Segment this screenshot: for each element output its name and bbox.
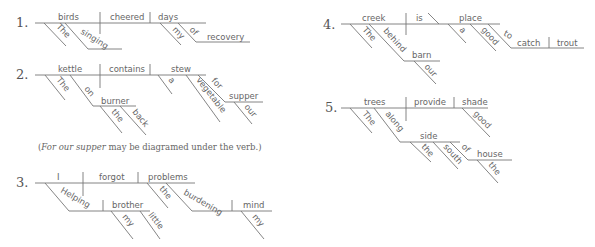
prep-object-word: recovery [207, 32, 244, 42]
participle-object-word: mind [243, 200, 264, 210]
verb-word: is [416, 13, 423, 23]
verb-word: forgot [99, 172, 125, 182]
verb-word: cheered [110, 12, 144, 22]
modifier-word: good [472, 108, 494, 130]
object-word: stew [171, 64, 191, 74]
subject-word: I [57, 172, 60, 182]
preposition-word: along [383, 109, 406, 133]
object-word: problems [148, 172, 188, 182]
diagram-1: 1. birds cheered days The singing my of … [16, 12, 250, 51]
modifier-word: singing [79, 26, 110, 51]
complement-divider [428, 13, 439, 24]
object-word: days [158, 12, 179, 22]
diagram-5: 5. trees provide shade The along side th… [325, 97, 512, 183]
modifier-word: good [480, 25, 502, 47]
participle-word: Helping [59, 185, 92, 210]
prep-object-word: supper [229, 91, 259, 101]
modifier-word: my [171, 24, 187, 41]
modifier-word: our [423, 62, 440, 80]
preposition-word: behind [382, 26, 409, 54]
diagram-3: 3. I forgot problems Helping brother my … [16, 172, 272, 239]
complement-word: place [459, 13, 482, 23]
preposition-word: of [188, 24, 202, 38]
diagram-number: 1. [16, 15, 28, 30]
prep-object-word: side [420, 131, 437, 141]
object-word: shade [462, 97, 488, 107]
subject-word: kettle [58, 64, 82, 74]
verb-word: contains [109, 64, 146, 74]
modifier-word: a [166, 75, 177, 85]
diagram-number: 5. [325, 100, 337, 115]
subject-word: creek [362, 13, 385, 23]
infinitive-marker-word: to [502, 28, 514, 41]
modifier-word: The [54, 74, 72, 93]
subject-word: trees [364, 97, 386, 107]
diagram-number: 4. [323, 17, 335, 32]
modifier-word: the [486, 160, 503, 177]
participle-object-word: brother [112, 200, 144, 210]
verb-word: provide [414, 97, 446, 107]
diagram-number: 2. [16, 67, 28, 82]
modifier-word: The [360, 24, 379, 43]
modifier-word: The [360, 108, 378, 127]
diagram-4: 4. creek is place The behind barn our a … [323, 13, 584, 84]
diagram-note: (For our supper may be diagramed under t… [38, 142, 262, 152]
participle-word: burdening [182, 187, 224, 217]
prep-object-word: barn [412, 50, 431, 60]
diagram-2: 2. kettle contains stew The on burner th… [16, 64, 263, 152]
modifier-word: the [420, 142, 437, 159]
modifier-word: a [458, 25, 469, 36]
sentence-diagrams: 1. birds cheered days The singing my of … [0, 0, 595, 247]
preposition-word: on [82, 84, 96, 99]
infinitive-object-word: trout [557, 38, 578, 48]
modifier-word: back [130, 107, 151, 129]
prep-object-word: burner [101, 96, 130, 106]
infinitive-word: catch [517, 38, 540, 48]
modifier-word: little [146, 210, 166, 231]
prep-object-word: house [477, 149, 503, 159]
diagram-number: 3. [16, 175, 28, 190]
subject-word: birds [58, 12, 79, 22]
modifier-word: our [242, 102, 259, 120]
